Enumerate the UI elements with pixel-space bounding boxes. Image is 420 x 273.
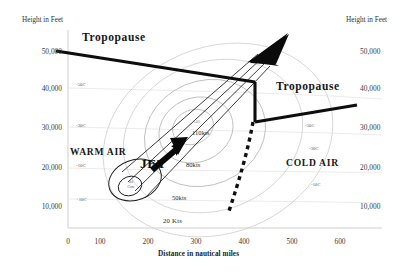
y-tick-right-30000: 30,000 xyxy=(360,124,402,131)
x-tick-300: 300 xyxy=(180,238,212,245)
isotach-label-80kts: 80kts xyxy=(186,162,200,169)
jet-label: JET xyxy=(140,157,167,171)
tropopause-label-cold: Tropopause xyxy=(276,81,340,93)
y-tick-right-40000: 40,000 xyxy=(360,85,402,92)
temp-warm-minus30: -30C xyxy=(76,124,86,129)
temp-cold-minus30: -30C xyxy=(309,147,319,152)
y-tick-left-10000: 10,000 xyxy=(20,203,62,210)
isotach-label-50kts: 50kts xyxy=(172,195,186,202)
x-tick-500: 500 xyxy=(276,238,308,245)
tropopause-cold-segment xyxy=(255,105,357,122)
cold-air-label: COLD AIR xyxy=(286,158,339,168)
jet-core-label-line2: Core xyxy=(120,186,142,190)
y-axis-title-right: Height in Feet xyxy=(346,17,387,24)
tropopause-warm-segment xyxy=(56,51,255,82)
isotach-label-140kts: 140 xyxy=(193,120,200,124)
isotach-contour-group xyxy=(74,10,362,271)
temp-warm-plus10: +10C xyxy=(76,198,87,203)
temp-warm-minus50: -50C xyxy=(76,83,86,88)
jet-streamlines xyxy=(122,54,270,198)
x-tick-0: 0 xyxy=(52,238,84,245)
isotach-20kts xyxy=(74,10,362,271)
x-tick-100: 100 xyxy=(84,238,116,245)
x-tick-200: 200 xyxy=(132,238,164,245)
diagram-canvas xyxy=(0,0,420,273)
y-tick-left-40000: 40,000 xyxy=(20,85,62,92)
y-tick-left-50000: 50,000 xyxy=(20,48,62,55)
warm-air-label: WARM AIR xyxy=(70,147,127,157)
isotach-label-110kts: 110kts xyxy=(192,130,209,137)
y-tick-right-20000: 20,000 xyxy=(360,164,402,171)
y-tick-left-20000: 20,000 xyxy=(20,164,62,171)
jet-exit-arrowhead-fill xyxy=(250,34,289,64)
isotach-label-20kts: 20 Kts xyxy=(163,218,182,225)
x-tick-600: 600 xyxy=(324,238,356,245)
temp-warm-minus10: -10C xyxy=(76,164,86,169)
y-axis-title-left: Height in Feet xyxy=(22,17,63,24)
temp-cold-minus10: -10C xyxy=(311,183,321,188)
tropopause-label-warm: Tropopause xyxy=(82,32,146,44)
y-tick-left-30000: 30,000 xyxy=(20,124,62,131)
x-axis-caption: Distance in nautical miles xyxy=(158,251,239,258)
temp-cold-minus50: -50C xyxy=(305,124,315,129)
y-tick-right-50000: 50,000 xyxy=(360,48,402,55)
x-tick-400: 400 xyxy=(228,238,260,245)
jet-stream-cross-section-figure: Height in Feet Height in Feet 50,000 40,… xyxy=(0,0,420,273)
y-tick-right-10000: 10,000 xyxy=(360,203,402,210)
